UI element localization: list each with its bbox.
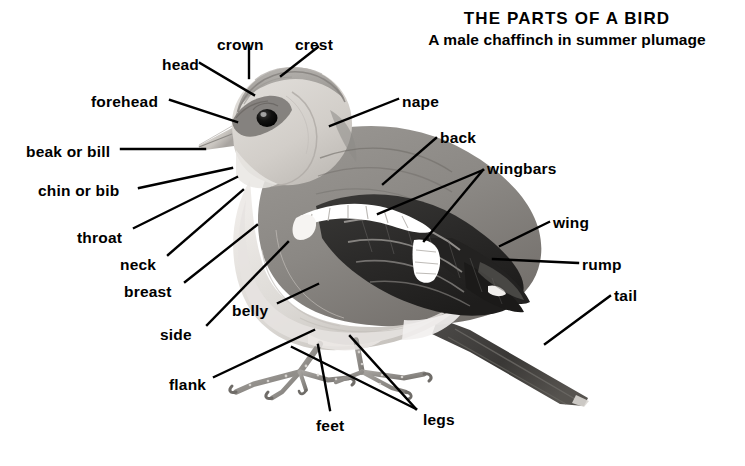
part-label-breast: breast <box>124 284 172 300</box>
part-label-rump: rump <box>582 257 622 273</box>
bird-parts-diagram: THE PARTS OF A BIRD A male chaffinch in … <box>0 0 745 466</box>
part-label-wing: wing <box>553 215 589 231</box>
part-label-feet: feet <box>316 418 344 434</box>
bird-eye <box>257 109 278 127</box>
title-block: THE PARTS OF A BIRD A male chaffinch in … <box>407 8 727 50</box>
bird-beak <box>198 128 234 150</box>
leader-line-tail <box>545 296 610 344</box>
part-label-nape: nape <box>402 94 439 110</box>
part-label-side: side <box>160 327 192 343</box>
part-label-wingbars: wingbars <box>487 161 557 177</box>
part-label-throat: throat <box>77 230 122 246</box>
part-label-belly: belly <box>232 303 268 319</box>
leader-line-forehead <box>170 100 237 122</box>
part-label-forehead: forehead <box>91 94 158 110</box>
part-label-back: back <box>440 130 476 146</box>
part-label-crest: crest <box>295 37 333 53</box>
part-label-tail: tail <box>614 288 637 304</box>
part-label-neck: neck <box>120 257 156 273</box>
leader-line-chin-or-bib <box>139 168 232 188</box>
page-title: THE PARTS OF A BIRD <box>407 8 727 29</box>
leader-line-head <box>200 63 254 95</box>
page-subtitle: A male chaffinch in summer plumage <box>407 30 727 50</box>
part-label-flank: flank <box>169 377 206 393</box>
part-label-beak-or-bill: beak or bill <box>26 144 110 160</box>
part-label-legs: legs <box>423 412 455 428</box>
bird-tail <box>432 318 589 407</box>
part-label-crown: crown <box>217 37 264 53</box>
part-label-chin-or-bib: chin or bib <box>38 183 119 199</box>
part-label-head: head <box>162 57 199 73</box>
